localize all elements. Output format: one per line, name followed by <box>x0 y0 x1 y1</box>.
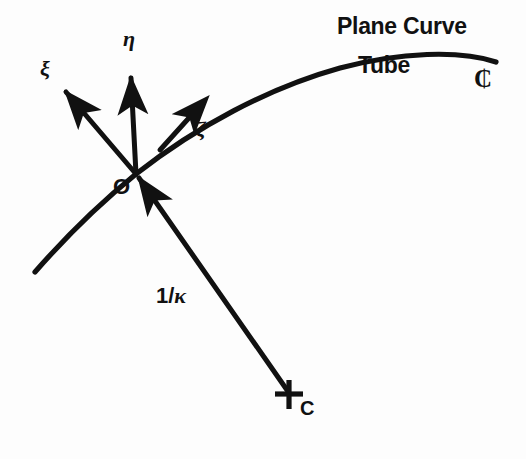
origin-label: O <box>113 176 130 198</box>
radius-of-curvature-label: 1/κ <box>156 285 186 307</box>
figure-root: Plane Curve Tube ₵ ξ η ζ O 1/κ C <box>0 0 526 459</box>
centerline-symbol-label: ₵ <box>474 66 492 91</box>
axis-xi-arrow <box>66 92 136 174</box>
tube-label: Tube <box>358 54 410 77</box>
axis-zeta-label: ζ <box>196 118 206 140</box>
diagram-canvas <box>0 0 526 459</box>
kappa-symbol: κ <box>174 283 186 308</box>
center-of-curvature-label: C <box>300 398 314 418</box>
radius-prefix: 1/ <box>156 283 174 308</box>
axis-eta-arrow <box>131 78 136 174</box>
center-of-curvature-marker <box>275 380 303 409</box>
plane-curve-label: Plane Curve <box>337 15 467 38</box>
plane-curve-centerline <box>35 54 496 272</box>
axis-xi-label: ξ <box>40 58 50 80</box>
axis-eta-label: η <box>123 28 135 50</box>
